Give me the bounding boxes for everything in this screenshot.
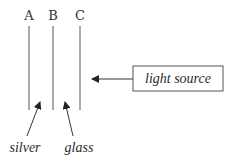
glass-arrow [65, 102, 73, 136]
silver-label: silver [9, 140, 41, 155]
diagram-canvas: A B C light source silver glass [0, 0, 236, 162]
label-a: A [23, 8, 34, 23]
glass-label: glass [65, 140, 94, 155]
label-c: C [75, 8, 85, 23]
label-b: B [48, 8, 58, 23]
light-source-label: light source [145, 71, 211, 86]
